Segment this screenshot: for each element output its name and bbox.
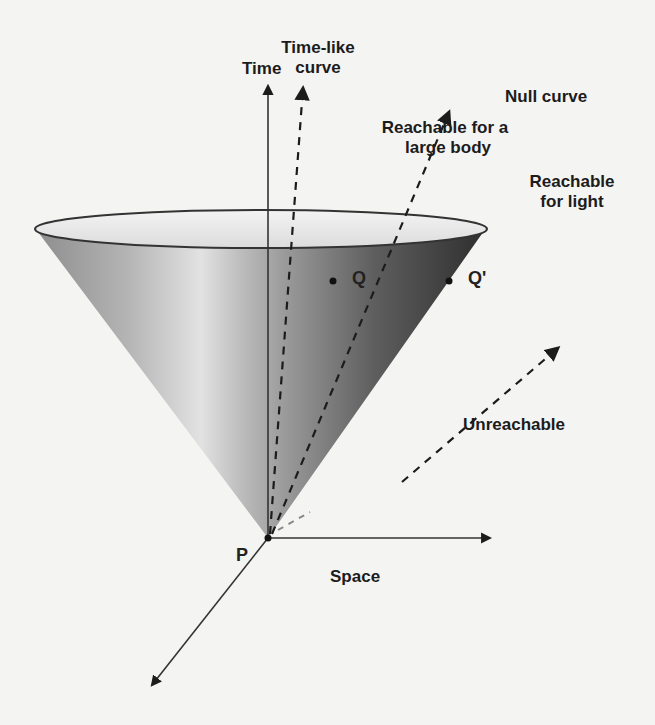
point-q-label: Q: [352, 268, 366, 289]
reachable-large-body-line1: Reachable for a: [360, 118, 530, 138]
reachable-large-body-line2: large body: [360, 138, 530, 158]
point-p-dot: [265, 535, 272, 542]
space-axis-label: Space: [330, 567, 380, 587]
unreachable-label: Unreachable: [463, 415, 565, 435]
timelike-curve-label-line1: Time-like: [268, 38, 368, 58]
light-cone-rim: [35, 210, 487, 248]
reachable-light-line1: Reachable: [512, 172, 632, 192]
depth-axis: [152, 538, 268, 685]
point-q-prime-dot: [446, 278, 453, 285]
point-p-label: P: [236, 545, 248, 566]
point-q-prime-label: Q': [468, 268, 486, 289]
light-cone-surface: [35, 228, 486, 538]
null-curve-label: Null curve: [505, 87, 587, 107]
light-cone-diagram: [0, 0, 655, 725]
point-q-dot: [330, 278, 337, 285]
reachable-light-label: Reachable for light: [512, 172, 632, 212]
timelike-curve-label-line2: curve: [268, 58, 368, 78]
timelike-curve-label: Time-like curve: [268, 38, 368, 78]
reachable-large-body-label: Reachable for a large body: [360, 118, 530, 158]
reachable-light-line2: for light: [512, 192, 632, 212]
